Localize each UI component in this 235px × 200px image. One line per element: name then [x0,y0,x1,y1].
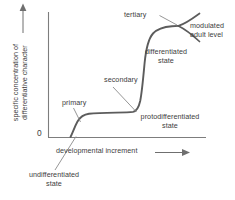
annotation-modulated-line2: adult level [190,31,223,39]
annotation-primary: primary [62,99,86,107]
y-axis-label-line2: differentiative character [20,45,29,120]
leader-secondary [113,87,137,112]
annotation-tertiary: tertiary [124,11,146,19]
x-axis-label: developmental increment [56,147,137,155]
leader-primary [74,108,81,122]
annotation-differentiated-line2: state [133,57,199,65]
annotation-undifferentiated-line2: state [8,180,100,188]
leader-tertiary [160,16,178,26]
differentiation-curve-figure: specific concentration of differentiativ… [0,0,235,200]
annotation-secondary: secondary [104,76,138,84]
annotation-protodifferentiated-line2: state [128,122,212,130]
y-axis-zero-label: 0 [37,128,42,138]
y-axis-label: specific concentration of differentiativ… [12,28,29,138]
x-axis-arrow-icon [155,149,190,156]
